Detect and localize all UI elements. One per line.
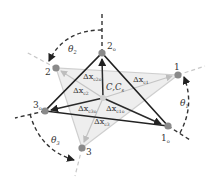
node-3o: [41, 107, 48, 114]
label-3o: 3o: [33, 100, 42, 111]
label-theta1: θ1: [180, 98, 189, 109]
label-1o: 1o: [161, 133, 170, 144]
label-theta3: θ3: [51, 135, 60, 146]
label-2: 2: [45, 67, 51, 77]
label-theta2: θ2: [68, 44, 77, 55]
node-2o: [98, 49, 105, 56]
center-node: [100, 95, 106, 101]
label-1: 1: [174, 62, 180, 72]
node-1: [174, 71, 181, 78]
node-3: [78, 144, 85, 151]
rotation-diagram: 2o 1o 3o 1 2 3 C,Cs θ2 θ1 θ3 Δxc2o Δxc2 …: [0, 0, 215, 182]
label-2o: 2o: [107, 41, 116, 52]
label-3: 3: [86, 147, 92, 157]
node-2: [52, 64, 59, 71]
node-1o: [164, 122, 171, 129]
